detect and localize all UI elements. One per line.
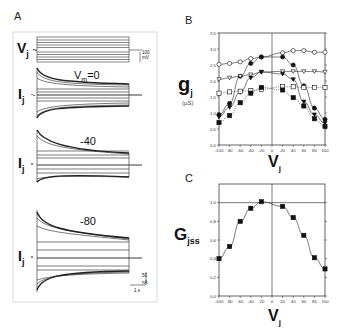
- svg-text:0,5: 0,5: [210, 127, 217, 132]
- gj-unit: (µS): [182, 100, 193, 106]
- plot-B: [217, 33, 327, 147]
- svg-text:0,6: 0,6: [210, 238, 217, 243]
- svg-text:-80: -80: [226, 148, 233, 153]
- svg-text:-60: -60: [237, 299, 244, 304]
- conductance-plots: -100-80-60-40-200204060801000,00,51,01,5…: [0, 0, 338, 336]
- gj-ylabel: gj: [178, 73, 193, 98]
- svg-text:-100: -100: [215, 299, 224, 304]
- svg-text:0,4: 0,4: [210, 256, 217, 261]
- svg-text:80: 80: [312, 299, 317, 304]
- svg-text:0: 0: [271, 299, 274, 304]
- svg-text:-60: -60: [237, 148, 244, 153]
- svg-text:100: 100: [321, 299, 329, 304]
- svg-text:2,0: 2,0: [210, 79, 217, 84]
- svg-text:20: 20: [280, 148, 285, 153]
- svg-text:2,5: 2,5: [210, 63, 217, 68]
- plot-C: [217, 184, 327, 298]
- svg-text:0,0: 0,0: [210, 143, 217, 148]
- svg-text:60: 60: [301, 148, 306, 153]
- svg-text:3,5: 3,5: [210, 31, 217, 36]
- svg-text:1,0: 1,0: [210, 111, 217, 116]
- svg-text:-80: -80: [226, 299, 233, 304]
- svg-text:-40: -40: [248, 299, 255, 304]
- svg-text:0,0: 0,0: [210, 294, 217, 299]
- svg-text:-100: -100: [215, 148, 224, 153]
- svg-text:100: 100: [321, 148, 329, 153]
- svg-text:0,2: 0,2: [210, 275, 217, 280]
- svg-text:40: 40: [291, 299, 296, 304]
- svg-text:-20: -20: [258, 299, 265, 304]
- svg-text:60: 60: [301, 299, 306, 304]
- svg-text:20: 20: [280, 299, 285, 304]
- gjss-ylabel: Gjss: [174, 225, 200, 246]
- svg-text:-40: -40: [248, 148, 255, 153]
- svg-text:0,8: 0,8: [210, 219, 217, 224]
- svg-text:3,0: 3,0: [210, 47, 217, 52]
- svg-text:1,5: 1,5: [210, 95, 217, 100]
- svg-text:80: 80: [312, 148, 317, 153]
- svg-text:1,0: 1,0: [210, 200, 217, 205]
- vj-xlabel-b: Vj: [268, 153, 281, 173]
- svg-text:-20: -20: [258, 148, 265, 153]
- svg-text:40: 40: [291, 148, 296, 153]
- vj-xlabel-c: Vj: [268, 307, 281, 327]
